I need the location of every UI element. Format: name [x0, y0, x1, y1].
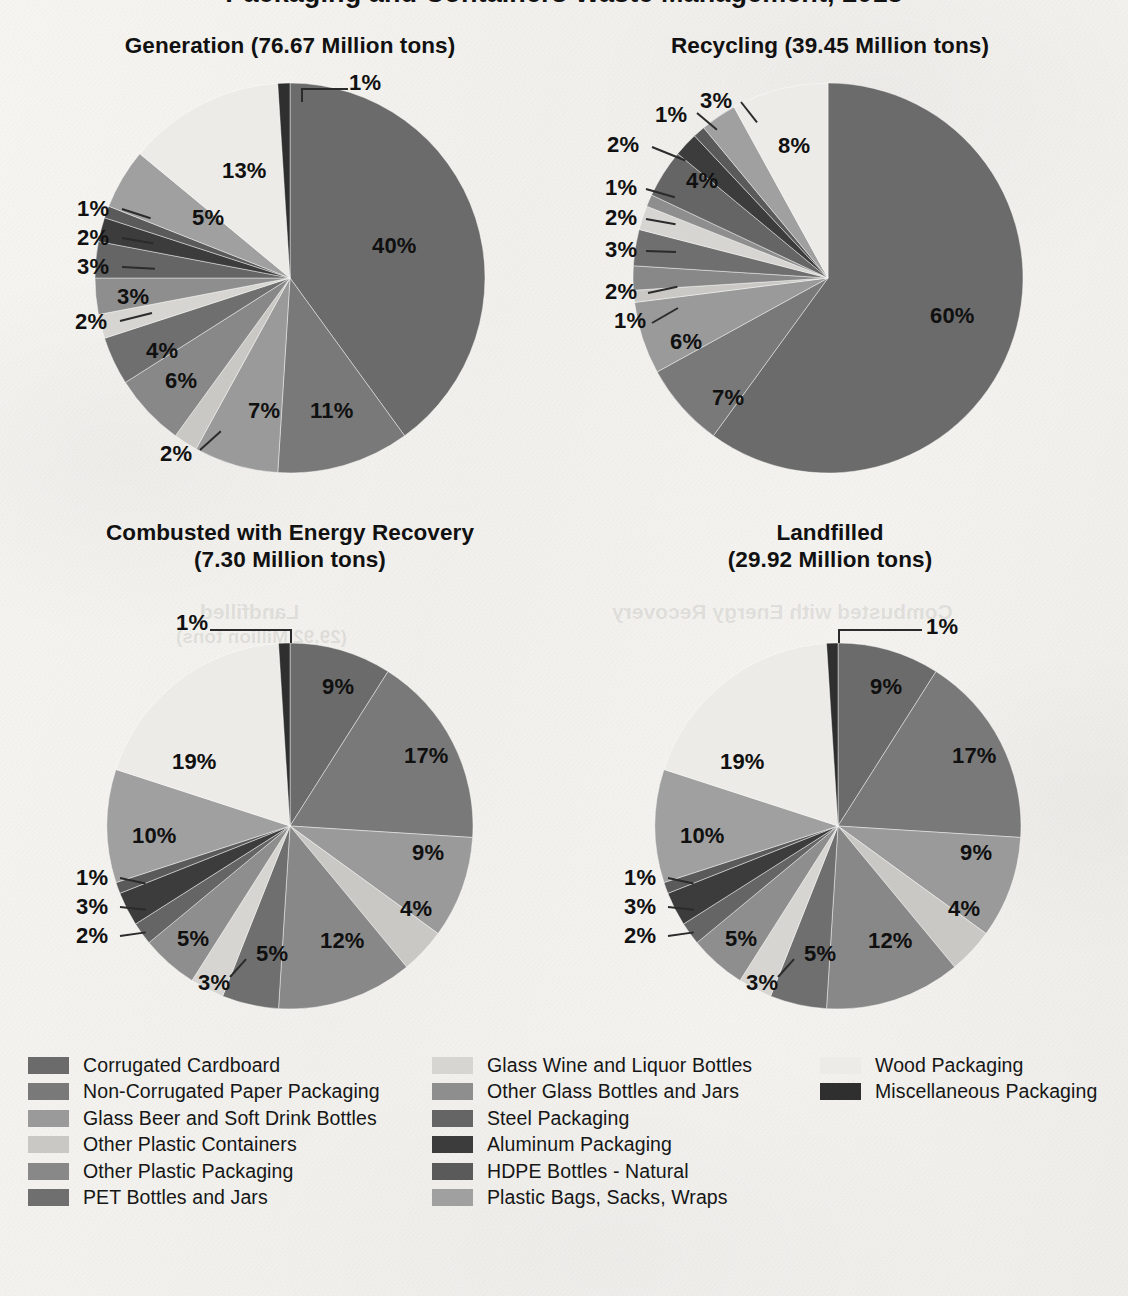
- pie-slice-percent-label: 6%: [670, 331, 702, 353]
- pie-slice-percent-label: 1%: [77, 198, 109, 220]
- legend-item[interactable]: HDPE Bottles - Natural: [432, 1158, 752, 1185]
- pie-slice: [664, 826, 838, 893]
- pie-slice-percent-label: 4%: [948, 898, 980, 920]
- legend-item-label: Miscellaneous Packaging: [875, 1080, 1097, 1103]
- legend-item-label: Corrugated Cardboard: [83, 1054, 280, 1077]
- legend-color-swatch: [820, 1057, 861, 1074]
- pie-slice: [652, 154, 828, 278]
- legend-item[interactable]: Plastic Bags, Sacks, Wraps: [432, 1185, 752, 1212]
- pie-slice: [647, 195, 828, 278]
- label-leader-line: [120, 877, 146, 884]
- label-leader-line: [646, 218, 676, 225]
- pie-slice: [105, 278, 290, 382]
- label-leader-line: [696, 112, 717, 130]
- pie-slice-percent-label: 1%: [926, 616, 958, 638]
- pie-slice-percent-label: 4%: [400, 898, 432, 920]
- legend-item-label: Glass Wine and Liquor Bottles: [487, 1054, 752, 1077]
- label-leader-line: [122, 266, 155, 270]
- pie-slice-percent-label: 1%: [655, 104, 687, 126]
- label-leader-line: [646, 250, 676, 253]
- pie-slice: [140, 83, 290, 278]
- legend-item[interactable]: PET Bottles and Jars: [28, 1185, 380, 1212]
- label-leader-line: [668, 906, 694, 911]
- legend-item-label: PET Bottles and Jars: [83, 1186, 268, 1209]
- label-leader-line: [122, 208, 151, 219]
- legend-color-swatch: [820, 1083, 861, 1100]
- legend-item[interactable]: Non-Corrugated Paper Packaging: [28, 1079, 380, 1106]
- pie-slice-percent-label: 3%: [605, 239, 637, 261]
- legend-column-1: Corrugated CardboardNon-Corrugated Paper…: [28, 1052, 380, 1211]
- label-leader-line: [648, 286, 678, 294]
- pie-slice-percent-label: 17%: [404, 745, 449, 767]
- legend-color-swatch: [432, 1083, 473, 1100]
- pie-slice: [713, 83, 1023, 473]
- legend-color-swatch: [432, 1163, 473, 1180]
- pie-slice-percent-label: 2%: [605, 207, 637, 229]
- pie-slice-percent-label: 60%: [930, 305, 975, 327]
- pie-slice-percent-label: 9%: [412, 842, 444, 864]
- pie-slice-percent-label: 7%: [712, 387, 744, 409]
- pie-slice-percent-label: 2%: [75, 311, 107, 333]
- pie-slice: [838, 643, 936, 826]
- pie-slice-percent-label: 1%: [614, 310, 646, 332]
- legend-item[interactable]: Corrugated Cardboard: [28, 1052, 380, 1079]
- pie-slice: [223, 826, 290, 1009]
- pie-slice-percent-label: 3%: [117, 286, 149, 308]
- pie-slice-percent-label: 17%: [952, 745, 997, 767]
- pie-slice: [279, 643, 290, 826]
- legend-item[interactable]: Other Plastic Packaging: [28, 1158, 380, 1185]
- legend-color-swatch: [432, 1136, 473, 1153]
- label-leader-line: [120, 906, 146, 911]
- pie-slice-percent-label: 1%: [624, 867, 656, 889]
- legend-item-label: Other Plastic Packaging: [83, 1160, 293, 1183]
- pie-slice: [655, 769, 838, 882]
- pie-slice-percent-label: 3%: [76, 896, 108, 918]
- legend-item[interactable]: Miscellaneous Packaging: [820, 1079, 1097, 1106]
- pie-slice: [838, 826, 1021, 934]
- legend-item-label: Glass Beer and Soft Drink Bottles: [83, 1107, 377, 1130]
- label-leader-line: [838, 629, 922, 631]
- label-leader-line: [740, 101, 758, 123]
- legend-item[interactable]: Aluminum Packaging: [432, 1132, 752, 1159]
- pie-slice-percent-label: 1%: [176, 612, 208, 634]
- pie-slice: [697, 826, 838, 981]
- label-leader-line: [668, 931, 694, 937]
- pie-slice: [633, 230, 828, 278]
- legend-item[interactable]: Steel Packaging: [432, 1105, 752, 1132]
- pie-slice-percent-label: 19%: [172, 751, 217, 773]
- pie-slice: [683, 826, 838, 943]
- pie-slice: [633, 266, 828, 290]
- legend-item[interactable]: Other Glass Bottles and Jars: [432, 1079, 752, 1106]
- pie-slice: [149, 826, 290, 981]
- pie-slice: [290, 83, 485, 436]
- pie-slice-percent-label: 3%: [700, 90, 732, 112]
- legend-color-swatch: [432, 1057, 473, 1074]
- pie-slice: [664, 643, 838, 826]
- pie-slice: [635, 278, 828, 372]
- pie-slice: [120, 826, 290, 924]
- pie-slice-percent-label: 5%: [256, 943, 288, 965]
- pie-slice-percent-label: 13%: [222, 160, 267, 182]
- pie-slice: [98, 218, 290, 278]
- legend-item-label: Plastic Bags, Sacks, Wraps: [487, 1186, 728, 1209]
- pie-slice-percent-label: 3%: [77, 256, 109, 278]
- pie-slice: [107, 769, 290, 882]
- legend-item[interactable]: Wood Packaging: [820, 1052, 1097, 1079]
- legend-item[interactable]: Glass Wine and Liquor Bottles: [432, 1052, 752, 1079]
- pie-slice: [175, 278, 290, 449]
- pie-slice-percent-label: 4%: [146, 340, 178, 362]
- label-leader-line: [652, 307, 679, 324]
- pie-slice: [105, 206, 290, 278]
- pie-slice-percent-label: 10%: [680, 825, 725, 847]
- legend-item[interactable]: Glass Beer and Soft Drink Bottles: [28, 1105, 380, 1132]
- pie-slice: [116, 643, 290, 826]
- label-leader-line: [122, 237, 154, 245]
- pie-slice: [827, 826, 955, 1009]
- pie-slice-percent-label: 2%: [76, 925, 108, 947]
- pie-slice-percent-label: 2%: [607, 134, 639, 156]
- legend-color-swatch: [28, 1136, 69, 1153]
- pie-slice-percent-label: 1%: [76, 867, 108, 889]
- pie-slice-percent-label: 1%: [349, 72, 381, 94]
- pie-slice: [771, 826, 838, 1009]
- legend-item[interactable]: Other Plastic Containers: [28, 1132, 380, 1159]
